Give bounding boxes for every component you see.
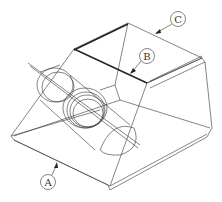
- callout-b: B: [130, 49, 155, 75]
- part-outline: [11, 23, 212, 190]
- isometric-part-drawing: C B A: [0, 0, 222, 202]
- callout-c: C: [155, 12, 186, 35]
- callout-a: A: [41, 162, 59, 190]
- cylinder-bores: [28, 63, 140, 155]
- svg-text:B: B: [143, 51, 150, 62]
- technical-drawing: C B A: [0, 0, 222, 202]
- svg-text:C: C: [174, 14, 182, 25]
- svg-text:A: A: [43, 177, 52, 188]
